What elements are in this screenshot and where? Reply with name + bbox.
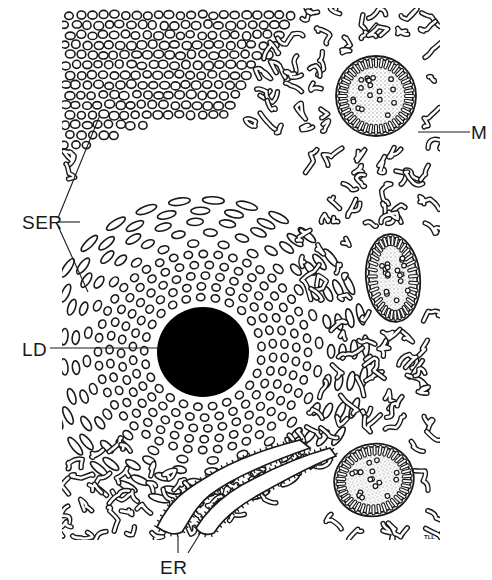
rough-er-layer <box>154 438 337 537</box>
lipid-droplet <box>157 307 249 397</box>
mitochondrion <box>362 232 423 324</box>
label-lipid-droplet: LD <box>22 340 47 359</box>
mitochondrion <box>326 435 422 525</box>
cell-ultrastructure-figure <box>0 0 492 580</box>
mitochondrion <box>336 56 416 136</box>
label-ser: SER <box>22 213 63 232</box>
mitochondria-layer <box>326 56 424 525</box>
label-mitochondrion: M <box>471 123 487 142</box>
leader-line-ser <box>58 115 100 218</box>
artist-signature: TLL <box>424 534 435 540</box>
lipid-droplet-layer <box>157 307 249 397</box>
leader-line-ser <box>58 226 88 292</box>
label-er: ER <box>160 558 187 577</box>
